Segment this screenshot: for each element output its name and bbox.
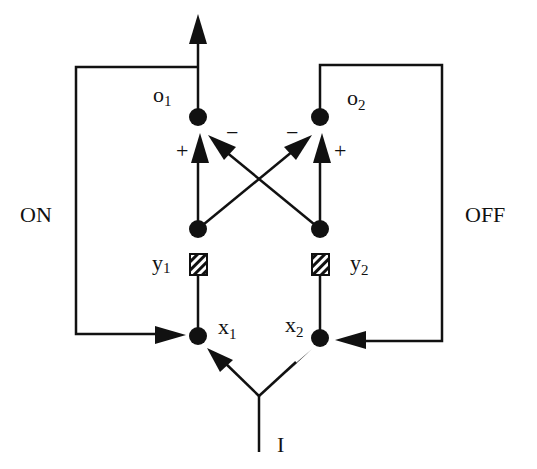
label-o2: o2 <box>347 85 366 113</box>
node-o2 <box>311 108 329 126</box>
input-to-x1-line <box>222 360 259 396</box>
sign-o1-minus: − <box>226 120 238 145</box>
sign-o1-plus: + <box>176 138 188 163</box>
output-arrow-icon <box>189 14 207 44</box>
input-label: I <box>277 432 284 457</box>
on-input-arrow-icon <box>155 326 186 344</box>
off-input-arrow-icon <box>335 331 366 349</box>
input-to-x2-line <box>259 362 296 396</box>
label-o1: o1 <box>153 82 172 109</box>
y1-to-o2-inhibitory-line <box>198 151 293 229</box>
off-label: OFF <box>465 202 505 227</box>
gate-y2-icon <box>312 254 329 275</box>
node-x2 <box>311 329 329 347</box>
label-y2: y2 <box>350 250 369 278</box>
label-x2: x2 <box>285 312 304 340</box>
gate-y1-icon <box>190 254 207 275</box>
node-y2-out <box>311 220 329 238</box>
y2-to-o1-inhibitory-line <box>225 151 320 229</box>
label-x1: x1 <box>218 314 237 342</box>
x2-input-arrow-icon <box>285 349 312 374</box>
on-label: ON <box>20 202 52 227</box>
node-x1 <box>189 327 207 345</box>
node-y1-out <box>189 220 207 238</box>
gated-dipole-diagram: ON OFF I o1 o2 y1 y2 x1 x2 + − − + <box>0 0 537 469</box>
o2-excitatory-arrow-icon <box>313 133 331 163</box>
node-o1 <box>189 108 207 126</box>
on-feedback-loop <box>76 67 198 334</box>
off-feedback-loop <box>320 65 442 341</box>
o1-excitatory-arrow-icon <box>191 133 209 163</box>
sign-o2-minus: − <box>286 120 298 145</box>
sign-o2-plus: + <box>334 138 346 163</box>
label-y1: y1 <box>152 250 171 276</box>
